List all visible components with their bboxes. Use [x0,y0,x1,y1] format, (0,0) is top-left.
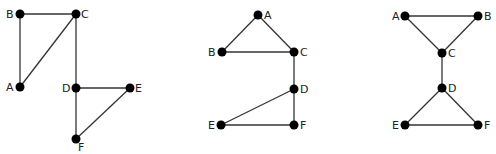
node-e [401,121,410,130]
node-label-c: C [448,47,456,60]
node-e [217,121,226,130]
edge-d-e [405,88,442,125]
graph-3: ABCDEF [392,10,492,132]
node-a [254,11,263,20]
node-a [16,83,25,92]
edge-a-b [222,15,258,52]
node-f [474,121,483,130]
node-label-e: E [392,119,399,132]
node-label-d: D [448,82,456,95]
node-label-a: A [264,9,272,22]
node-label-e: E [208,119,215,132]
node-label-b: B [6,8,14,21]
edge-d-e [221,89,294,125]
node-c [72,10,81,19]
node-d [438,84,447,93]
node-f [290,121,299,130]
node-label-c: C [81,8,89,21]
node-label-a: A [392,10,400,23]
node-a [401,12,410,21]
graph-2: ABCDEF [208,9,308,132]
node-label-d: D [62,82,70,95]
node-label-c: C [300,46,308,59]
node-label-b: B [208,46,216,59]
node-label-f: F [78,141,84,154]
node-label-d: D [300,83,308,96]
node-d [290,85,299,94]
edge-e-f [76,88,130,139]
node-c [290,48,299,57]
edge-a-c [405,16,442,53]
node-label-f: F [300,119,306,132]
node-b [474,12,483,21]
node-b [16,10,25,19]
node-b [218,48,227,57]
node-e [126,84,135,93]
edge-a-c [20,14,76,87]
node-d [72,84,81,93]
node-label-f: F [484,119,490,132]
node-label-e: E [135,82,142,95]
graphs-diagram: ABCDEF ABCDEF ABCDEF [0,0,496,154]
node-label-a: A [6,81,14,94]
graph-1: ABCDEF [6,8,142,154]
node-c [438,49,447,58]
node-label-b: B [484,10,492,23]
